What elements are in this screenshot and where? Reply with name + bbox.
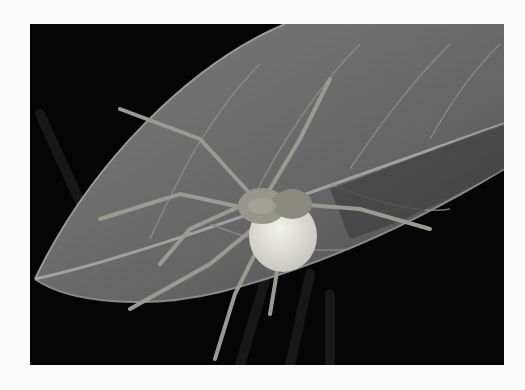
spider-on-leaf-illustration [30, 24, 504, 365]
spider-photo [30, 24, 504, 365]
spider-abdomen [272, 189, 312, 219]
